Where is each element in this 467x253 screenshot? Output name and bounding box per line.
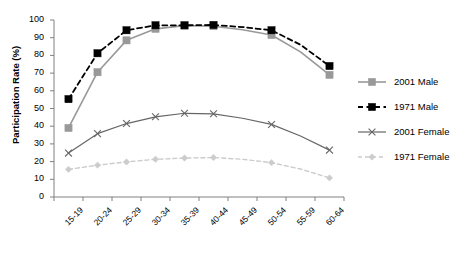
data-point-marker	[369, 154, 375, 160]
series-line	[69, 158, 330, 178]
y-axis-tick-label: 60	[22, 85, 44, 95]
data-point-marker	[65, 96, 72, 103]
marker-diamond	[210, 154, 216, 160]
data-point-marker	[210, 21, 217, 28]
series-2001-female	[65, 110, 333, 157]
marker-diamond	[123, 159, 129, 165]
data-point-marker	[152, 156, 158, 162]
data-point-marker	[368, 103, 375, 110]
marker-square	[65, 96, 72, 103]
marker-diamond	[268, 159, 274, 165]
marker-square	[123, 27, 130, 34]
y-axis-tick-label: 30	[22, 138, 44, 148]
data-point-marker	[326, 175, 332, 181]
data-point-marker	[123, 159, 129, 165]
data-point-marker	[94, 69, 101, 76]
marker-square	[368, 103, 375, 110]
series-line	[69, 113, 330, 153]
data-point-marker	[94, 130, 101, 137]
y-axis-tick-label: 50	[22, 103, 44, 113]
data-point-marker	[326, 147, 333, 154]
participation-rate-chart: Participation Rate (%) 10090807060504030…	[0, 0, 467, 253]
data-point-marker	[65, 150, 72, 157]
legend-item-1971-female[interactable]: 1971 Female	[394, 151, 449, 162]
data-point-marker	[123, 27, 130, 34]
marker-square	[123, 37, 130, 44]
data-point-marker	[210, 154, 216, 160]
data-point-marker	[181, 22, 188, 29]
legend-item-1971-male[interactable]: 1971 Male	[394, 101, 438, 112]
data-point-marker	[268, 27, 275, 34]
data-point-marker	[123, 37, 130, 44]
marker-square	[268, 27, 275, 34]
marker-diamond	[369, 154, 375, 160]
data-point-marker	[326, 62, 333, 69]
marker-diamond	[65, 166, 71, 172]
marker-diamond	[326, 175, 332, 181]
data-point-marker	[65, 166, 71, 172]
series-line	[69, 26, 330, 128]
marker-square	[94, 50, 101, 57]
marker-square	[210, 21, 217, 28]
marker-square	[65, 124, 72, 131]
y-axis-tick-label: 100	[22, 14, 44, 24]
y-axis-tick-label: 0	[22, 191, 44, 201]
data-point-marker	[94, 50, 101, 57]
marker-square	[368, 78, 375, 85]
data-point-marker	[268, 159, 274, 165]
data-point-marker	[368, 78, 375, 85]
legend-item-2001-male[interactable]: 2001 Male	[394, 76, 438, 87]
marker-diamond	[94, 162, 100, 168]
marker-square	[152, 22, 159, 29]
series-2001-male	[65, 22, 333, 132]
marker-square	[326, 62, 333, 69]
y-axis-tick-label: 80	[22, 49, 44, 59]
marker-square	[94, 69, 101, 76]
marker-square	[181, 22, 188, 29]
series-1971-female	[65, 154, 332, 181]
data-point-marker	[65, 124, 72, 131]
y-axis-tick-label: 70	[22, 67, 44, 77]
marker-diamond	[152, 156, 158, 162]
legend-item-2001-female[interactable]: 2001 Female	[394, 126, 449, 137]
y-axis-tick-label: 20	[22, 156, 44, 166]
data-point-marker	[326, 71, 333, 78]
y-axis-tick-label: 40	[22, 120, 44, 130]
data-point-marker	[181, 155, 187, 161]
data-point-marker	[152, 22, 159, 29]
y-axis-tick-label: 10	[22, 173, 44, 183]
marker-square	[326, 71, 333, 78]
marker-diamond	[181, 155, 187, 161]
y-axis-tick-label: 90	[22, 32, 44, 42]
data-point-marker	[94, 162, 100, 168]
series-1971-male	[65, 21, 333, 102]
